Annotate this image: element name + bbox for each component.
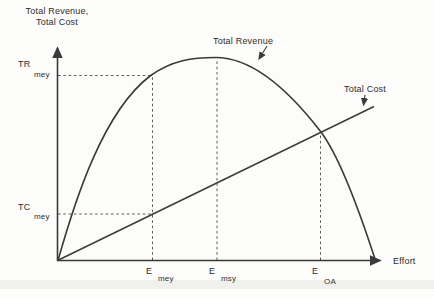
- scan-shadow-band: [0, 280, 434, 289]
- e-msy-label-base: E: [209, 266, 215, 276]
- y-axis-title-line1: Total Revenue,: [26, 6, 89, 16]
- figure-page: Total Revenue, Total Cost Total Revenue …: [0, 0, 434, 298]
- figure-canvas: Total Revenue, Total Cost Total Revenue …: [0, 0, 434, 298]
- total-cost-line: [58, 107, 375, 261]
- y-axis-title-line2: Total Cost: [36, 17, 78, 27]
- tr-mey-label-base: TR: [18, 59, 31, 69]
- cost-line-label: Total Cost: [344, 84, 386, 94]
- revenue-pointer-arrow-icon: [259, 46, 267, 59]
- tc-mey-label-sub: mey: [34, 212, 50, 221]
- revenue-curve-label: Total Revenue: [213, 36, 273, 46]
- cost-pointer-arrow-icon: [364, 95, 366, 105]
- e-oa-label-base: E: [312, 266, 318, 276]
- x-axis-label: Effort: [393, 256, 416, 266]
- tr-mey-label-sub: mey: [34, 70, 50, 79]
- e-mey-label-base: E: [146, 266, 152, 276]
- tc-mey-label-base: TC: [18, 202, 31, 212]
